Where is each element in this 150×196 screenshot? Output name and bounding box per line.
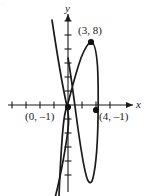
peak-point-label: (3, 8): [78, 25, 102, 36]
right-point-label: (4, –1): [99, 111, 128, 122]
peak-point-dot: [88, 39, 94, 45]
graph-figure: ·: [0, 0, 150, 196]
origin-point-label: (0, –1): [25, 111, 54, 122]
x-axis-label: x: [136, 99, 141, 110]
x-axis-arrowhead: [126, 102, 133, 108]
origin-point-dot: [65, 104, 71, 110]
y-axis-arrowhead: [65, 14, 71, 21]
cubic-curve: [59, 42, 98, 196]
y-axis-label: y: [65, 3, 70, 14]
coordinate-plane-svg: [0, 0, 150, 196]
